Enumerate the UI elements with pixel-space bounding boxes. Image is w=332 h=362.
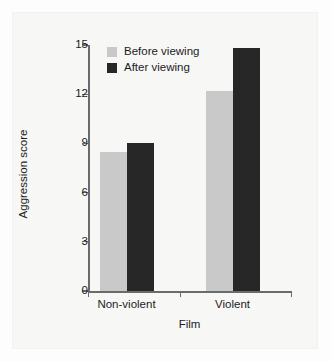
y-tick-label: 3 xyxy=(52,236,88,248)
legend-swatch-before-icon xyxy=(107,47,117,57)
y-tick-label: 12 xyxy=(52,88,88,100)
bar-violent-before-viewing xyxy=(206,91,233,291)
y-tick-label: 9 xyxy=(52,137,88,149)
y-axis-line xyxy=(88,45,90,292)
x-axis-line xyxy=(88,291,291,293)
chart-legend: Before viewing After viewing xyxy=(107,44,199,76)
figure-container: 03691215 Non-violentViolent Aggression s… xyxy=(0,0,332,362)
legend-label-after: After viewing xyxy=(124,62,190,74)
x-tick-mark xyxy=(88,291,89,297)
legend-swatch-after-icon xyxy=(107,63,117,73)
y-axis-title: Aggression score xyxy=(17,114,29,234)
x-axis-title: Film xyxy=(88,318,291,330)
x-category-label: Non-violent xyxy=(72,298,182,312)
y-tick-label: 15 xyxy=(52,39,88,51)
bar-non-violent-after-viewing xyxy=(127,143,154,291)
legend-label-before: Before viewing xyxy=(124,46,199,58)
y-tick-label: 6 xyxy=(52,187,88,199)
x-tick-mark xyxy=(180,291,181,297)
bar-non-violent-before-viewing xyxy=(100,152,127,291)
x-tick-mark xyxy=(291,291,292,297)
y-tick-label: 0 xyxy=(52,285,88,297)
x-category-label: Violent xyxy=(178,298,288,312)
legend-item-before: Before viewing xyxy=(107,44,199,59)
bar-violent-after-viewing xyxy=(233,48,260,291)
legend-item-after: After viewing xyxy=(107,60,199,75)
plot-area: 03691215 Non-violentViolent Aggression s… xyxy=(0,0,332,362)
